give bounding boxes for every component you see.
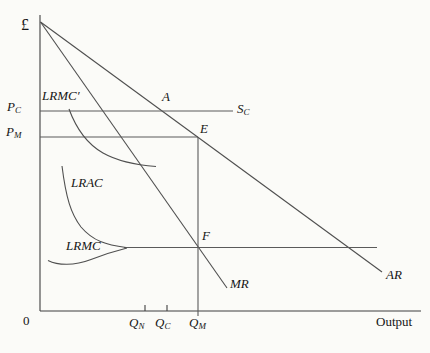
price-pc-label: PC: [7, 100, 21, 115]
ar-label: AR: [386, 268, 402, 281]
x-axis-label: Output: [376, 315, 412, 328]
point-e-label: E: [200, 122, 208, 135]
y-axis-label: £: [21, 17, 29, 33]
ar-line: [41, 22, 383, 272]
quantity-qc-label: QC: [155, 316, 170, 331]
lrmc-prime-curve: [69, 109, 156, 167]
lrac-label: LRAC: [71, 176, 103, 189]
diagram-canvas: [0, 0, 430, 353]
origin-label: 0: [23, 314, 30, 327]
sc-label: SC: [237, 102, 250, 117]
lrmc-label: LRMC: [66, 239, 101, 252]
price-pm-label: PM: [6, 125, 21, 140]
point-a-label: A: [162, 90, 170, 103]
point-f-label: F: [202, 229, 210, 242]
quantity-qm-label: QM: [189, 316, 206, 331]
monopoly-cost-diagram: £ 0 Output PC PM LRMC′ SC LRAC LRMC MR A…: [0, 0, 430, 353]
lrmc-prime-label: LRMC′: [42, 89, 80, 102]
quantity-qn-label: QN: [129, 316, 144, 331]
mr-label: MR: [230, 277, 249, 290]
